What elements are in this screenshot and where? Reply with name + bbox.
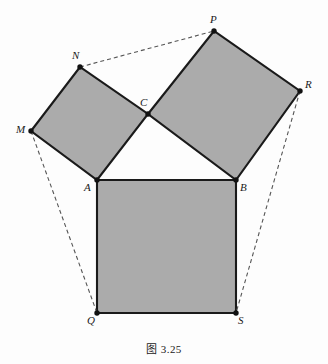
geometry-figure: P N R M C A B Q S 图 3.25 (0, 0, 328, 364)
vertex-label-A: A (84, 182, 91, 193)
vertex-dot-P (211, 28, 216, 33)
vertex-dot-N (77, 64, 82, 69)
geometry-canvas (0, 0, 328, 364)
vertex-label-S: S (238, 315, 244, 326)
square-CPRB-group (148, 31, 300, 180)
vertex-label-C: C (140, 97, 147, 108)
square-ABSQ-group (97, 180, 236, 313)
vertex-label-P: P (210, 14, 217, 25)
square-ABSQ (97, 180, 236, 313)
square-MNCA (31, 67, 148, 180)
vertex-dot-A (94, 177, 99, 182)
vertex-dot-M (28, 128, 33, 133)
vertex-label-B: B (240, 182, 247, 193)
vertex-dot-Q (94, 310, 99, 315)
square-MNCA-group (31, 67, 148, 180)
vertex-label-N: N (72, 50, 79, 61)
vertex-dot-R (297, 88, 302, 93)
square-CPRB (148, 31, 300, 180)
vertex-label-Q: Q (87, 315, 95, 326)
vertex-label-M: M (16, 124, 25, 135)
vertex-dot-B (233, 177, 238, 182)
figure-caption: 图 3.25 (0, 340, 328, 356)
vertex-label-R: R (305, 79, 312, 90)
vertex-dot-C (145, 111, 150, 116)
